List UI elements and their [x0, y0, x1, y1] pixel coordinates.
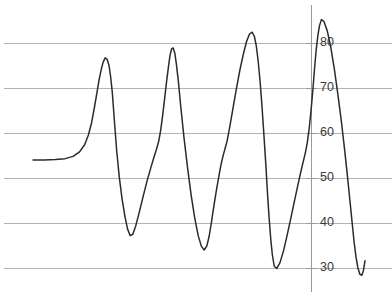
data-series-group [33, 20, 365, 276]
y-tick-label-60: 60 [320, 125, 334, 139]
data-line-signal [33, 20, 365, 276]
line-chart: 80 70 60 50 40 30 [0, 0, 392, 297]
y-tick-label-40: 40 [320, 215, 334, 229]
y-tick-label-30: 30 [320, 260, 334, 274]
y-tick-label-70: 70 [320, 80, 334, 94]
chart-container: 80 70 60 50 40 30 [0, 0, 392, 297]
y-axis [306, 5, 317, 292]
y-tick-label-50: 50 [320, 170, 334, 184]
y-axis-tick-labels: 80 70 60 50 40 30 [320, 35, 334, 274]
y-tick-label-80: 80 [320, 35, 334, 49]
